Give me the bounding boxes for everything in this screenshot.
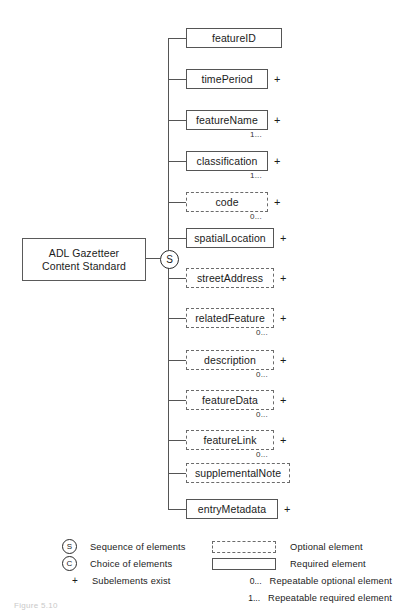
element-box[interactable]: streetAddress	[186, 268, 274, 288]
legend-swatch-label: Required element	[290, 559, 366, 569]
element-node[interactable]: relatedFeature+0...	[186, 308, 286, 328]
subelements-plus-icon: +	[284, 504, 290, 515]
element-node[interactable]: supplementalNote	[186, 463, 290, 483]
choice-circle-icon: C	[62, 556, 77, 571]
legend-swatch-label: Repeatable optional element	[270, 576, 392, 586]
element-node[interactable]: streetAddress+	[186, 268, 286, 288]
cardinality-label: 0...	[250, 212, 262, 221]
element-node[interactable]: featureLink+0...	[186, 430, 286, 450]
legend-swatch-cell	[212, 558, 290, 570]
element-node[interactable]: timePeriod+	[186, 69, 280, 89]
legend-row: +Subelements exist0...Repeatable optiona…	[62, 572, 392, 589]
element-box[interactable]: featureID	[186, 28, 282, 48]
legend-swatch-cell	[212, 541, 290, 553]
legend-row: 1...Repeatable required element	[62, 589, 392, 606]
subelements-plus-icon: +	[280, 273, 286, 284]
element-box[interactable]: supplementalNote	[186, 463, 290, 483]
element-label: classification	[197, 155, 258, 167]
subelements-plus-icon: +	[274, 74, 280, 85]
legend-label: Subelements exist	[92, 576, 171, 586]
element-box[interactable]: classification	[186, 151, 268, 171]
legend-swatch-label: Optional element	[290, 542, 363, 552]
element-node[interactable]: code+0...	[186, 192, 280, 212]
plus-icon: +	[62, 575, 84, 586]
cardinality-label: 1...	[250, 171, 262, 180]
element-label: featureID	[212, 32, 256, 44]
element-box[interactable]: relatedFeature	[186, 308, 274, 328]
element-box[interactable]: code	[186, 192, 268, 212]
legend-left-cell: +Subelements exist	[62, 575, 198, 586]
element-box[interactable]: description	[186, 350, 274, 370]
subelements-plus-icon: +	[274, 197, 280, 208]
legend-rows: SSequence of elementsOptional elementCCh…	[62, 538, 392, 606]
legend-symbol-label: C	[67, 560, 73, 568]
subelements-plus-icon: +	[280, 435, 286, 446]
element-label: code	[215, 196, 238, 208]
legend-label: Sequence of elements	[90, 542, 186, 552]
legend-swatch-label: Repeatable required element	[268, 593, 392, 603]
element-box[interactable]: spatialLocation	[186, 228, 274, 248]
legend-symbol: C	[62, 556, 84, 571]
required-box-swatch	[212, 558, 276, 570]
subelements-plus-icon: +	[274, 115, 280, 126]
subelements-plus-icon: +	[280, 395, 286, 406]
element-box[interactable]: featureName	[186, 110, 268, 130]
element-node[interactable]: classification+1...	[186, 151, 280, 171]
diagram-canvas: ADL Gazetteer Content Standard S feature…	[0, 0, 401, 615]
legend-label: Choice of elements	[90, 559, 172, 569]
element-label: featureData	[202, 394, 258, 406]
legend-cardinality: 0...	[198, 576, 270, 586]
element-node[interactable]: spatialLocation+	[186, 228, 286, 248]
element-node[interactable]: description+0...	[186, 350, 286, 370]
sequence-junction-icon: S	[160, 250, 179, 269]
subelements-plus-icon: +	[274, 156, 280, 167]
element-label: streetAddress	[197, 272, 263, 284]
element-node[interactable]: entryMetadata+	[186, 499, 290, 519]
root-node: ADL Gazetteer Content Standard	[22, 238, 146, 281]
legend: SSequence of elementsOptional elementCCh…	[62, 538, 392, 606]
element-label: entryMetadata	[198, 503, 266, 515]
figure-caption: Figure 5.10	[14, 601, 58, 610]
legend-left-cell: CChoice of elements	[62, 556, 212, 571]
sequence-junction-label: S	[166, 255, 173, 265]
legend-left-cell: SSequence of elements	[62, 539, 212, 554]
element-label: supplementalNote	[195, 467, 281, 479]
subelements-plus-icon: +	[280, 355, 286, 366]
cardinality-label: 0...	[256, 410, 268, 419]
cardinality-label: 0...	[256, 370, 268, 379]
sequence-circle-icon: S	[62, 539, 77, 554]
element-box[interactable]: entryMetadata	[186, 499, 278, 519]
legend-symbol: S	[62, 539, 84, 554]
element-label: featureLink	[203, 434, 256, 446]
optional-box-swatch	[212, 541, 276, 553]
cardinality-label: 0...	[256, 450, 268, 459]
legend-row: CChoice of elementsRequired element	[62, 555, 392, 572]
element-label: timePeriod	[201, 73, 252, 85]
element-box[interactable]: featureData	[186, 390, 274, 410]
root-node-line1: ADL Gazetteer	[49, 247, 119, 260]
element-node[interactable]: featureData+0...	[186, 390, 286, 410]
element-node[interactable]: featureName+1...	[186, 110, 280, 130]
element-box[interactable]: timePeriod	[186, 69, 268, 89]
cardinality-label: 1...	[250, 130, 262, 139]
legend-cardinality: 1...	[197, 593, 268, 603]
element-label: description	[204, 354, 256, 366]
element-box[interactable]: featureLink	[186, 430, 274, 450]
element-label: spatialLocation	[194, 232, 266, 244]
cardinality-label: 0...	[256, 328, 268, 337]
subelements-plus-icon: +	[280, 233, 286, 244]
element-label: relatedFeature	[195, 312, 265, 324]
legend-row: SSequence of elementsOptional element	[62, 538, 392, 555]
root-node-line2: Content Standard	[42, 260, 126, 273]
element-node[interactable]: featureID	[186, 28, 282, 48]
legend-symbol-label: S	[67, 543, 72, 551]
subelements-plus-icon: +	[280, 313, 286, 324]
element-label: featureName	[196, 114, 258, 126]
